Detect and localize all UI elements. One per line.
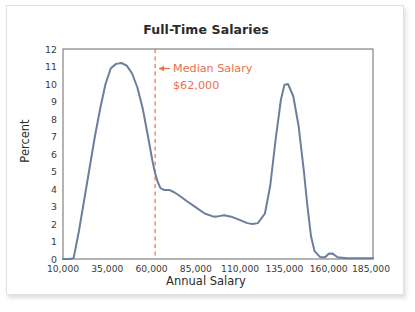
- svg-text:6: 6: [51, 149, 57, 160]
- x-axis-title: Annual Salary: [7, 274, 405, 288]
- svg-text:4: 4: [51, 184, 57, 195]
- svg-text:7: 7: [51, 131, 57, 142]
- x-axis-ticks: 10,000 35,000 60,000 85,000 110,000 135,…: [47, 263, 390, 274]
- salary-distribution-chart: 12 11 10 9 8 7 6 5 4 3 2 1 0 10,000 35,0…: [7, 6, 405, 296]
- svg-text:10,000: 10,000: [47, 263, 79, 274]
- svg-text:1: 1: [51, 236, 57, 247]
- svg-text:135,000: 135,000: [265, 263, 303, 274]
- svg-text:3: 3: [51, 201, 57, 212]
- svg-text:185,000: 185,000: [352, 263, 390, 274]
- svg-text:85,000: 85,000: [180, 263, 212, 274]
- svg-text:2: 2: [51, 219, 57, 230]
- median-salary-value: $62,000: [173, 79, 219, 92]
- svg-text:110,000: 110,000: [221, 263, 259, 274]
- svg-text:12: 12: [45, 44, 57, 55]
- y-axis-ticks: 12 11 10 9 8 7 6 5 4 3 2 1 0: [45, 44, 57, 265]
- svg-text:60,000: 60,000: [136, 263, 168, 274]
- y-axis-title: Percent: [18, 101, 32, 181]
- svg-text:5: 5: [51, 166, 57, 177]
- svg-text:10: 10: [45, 79, 57, 90]
- median-salary-label: Median Salary: [173, 62, 253, 75]
- svg-text:8: 8: [51, 114, 57, 125]
- svg-text:160,000: 160,000: [310, 263, 348, 274]
- svg-text:9: 9: [51, 96, 57, 107]
- svg-text:11: 11: [45, 61, 57, 72]
- svg-text:35,000: 35,000: [91, 263, 123, 274]
- figure-card: Full-Time Salaries 12 11 10 9 8 7 6 5 4 …: [6, 5, 404, 295]
